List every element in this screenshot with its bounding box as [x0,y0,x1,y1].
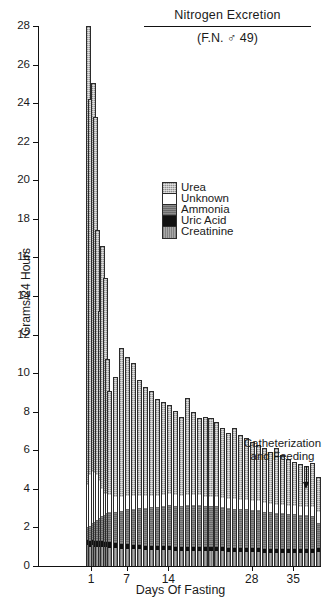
bar-segment-uric-acid [107,542,112,548]
y-axis-tick-label: 28 [17,19,30,31]
stacked-bar [220,428,225,566]
bar-segment-creatinine [274,553,279,567]
y-axis-tick: 28 [33,26,38,27]
stacked-bar [119,348,124,566]
stacked-bar [179,417,184,566]
bar-segment-unknown [310,507,315,516]
x-axis-tick-label: 7 [123,572,130,586]
bar-segment-creatinine [316,552,321,566]
y-axis-tick: 22 [33,142,38,143]
nitrogen-excretion-figure: Nitrogen Excretion (F.N. ♂ 49) Grams/24 … [0,0,325,602]
bar-segment-ammonia [244,509,249,548]
bar-segment-unknown [304,507,309,515]
bar-segment-creatinine [185,551,190,566]
y-axis-tick: 26 [33,65,38,66]
bar-segment-urea [286,459,291,506]
bar-segment-ammonia [268,512,273,549]
bar-segment-ammonia [173,506,178,547]
annotation-arrow-down-icon [302,466,311,490]
bar-segment-uric-acid [292,549,297,553]
bar-segment-unknown [256,501,261,510]
bar-segment-uric-acid [155,546,160,550]
bar-segment-uric-acid [304,549,309,553]
bar-segment-uric-acid [214,547,219,551]
bar-segment-creatinine [161,550,166,566]
bar-segment-urea [179,417,184,496]
stacked-bar [143,387,148,566]
bar-segment-uric-acid [143,546,148,550]
stacked-bar [286,459,291,566]
bar-segment-unknown [268,504,273,512]
bar-segment-ammonia [203,506,208,547]
bar-segment-creatinine [226,552,231,566]
bar-segment-unknown [238,500,243,509]
bar-segment-ammonia [250,510,255,548]
page-title: Nitrogen Excretion [140,8,315,25]
bar-segment-urea [125,357,130,496]
bar-segment-urea [232,428,237,499]
bar-segment-creatinine [173,551,178,566]
bar-segment-creatinine [232,552,237,566]
stacked-bar [232,428,237,566]
bar-segment-ammonia [310,516,315,549]
bar-segment-unknown [280,505,285,513]
bar-segment-creatinine [256,552,261,566]
bar-segment-creatinine [238,552,243,566]
y-axis-tick-label: 16 [17,250,30,262]
bar-segment-uric-acid [268,549,273,553]
legend-swatch-uric-acid [163,216,176,227]
bar-segment-ammonia [197,505,202,546]
bar-segment-uric-acid [179,547,184,551]
bar-segment-uric-acid [274,549,279,553]
bar-segment-ammonia [292,514,297,549]
bar-segment-uric-acid [185,547,190,551]
y-axis-tick: 12 [33,335,38,336]
y-axis-tick-label: 2 [24,520,30,532]
bar-segment-creatinine [250,552,255,566]
bar-segment-urea [161,402,166,495]
bar-segment-uric-acid [131,545,136,549]
bar-segment-uric-acid [167,546,172,550]
y-axis-tick-label: 18 [17,212,30,224]
stacked-bar [155,399,160,566]
stacked-bar [125,357,130,566]
bar-segment-ammonia [161,506,166,546]
bar-segment-creatinine [131,549,136,566]
bar-segment-creatinine [125,549,130,566]
bar-segment-ammonia [191,505,196,546]
bar-segment-ammonia [316,523,321,548]
bar-segment-urea [208,418,213,496]
bar-segment-urea [131,363,136,496]
bar-segment-uric-acid [316,548,321,552]
bar-segment-uric-acid [149,546,154,550]
bar-segment-uric-acid [244,548,249,552]
bar-segment-urea [292,462,297,506]
bar-segment-creatinine [167,550,172,566]
y-axis-tick-label: 10 [17,366,30,378]
bar-segment-urea [137,380,142,496]
legend-swatch-unknown [163,194,176,205]
bar-segment-unknown [274,505,279,513]
bar-segment-urea [220,428,225,497]
bar-segment-uric-acid [256,548,261,552]
bar-segment-creatinine [310,553,315,567]
bar-segment-creatinine [113,548,118,566]
bar-segment-uric-acid [208,547,213,551]
bar-segment-creatinine [220,551,225,566]
bar-segment-uric-acid [238,548,243,552]
y-axis-tick-label: 6 [24,443,30,455]
bar-segment-urea [185,398,190,494]
bar-segment-uric-acid [125,544,130,549]
bar-segment-unknown [119,497,124,511]
y-axis-tick-label: 24 [17,96,30,108]
bar-segment-ammonia [298,515,303,549]
stacked-bar [113,377,118,566]
bar-segment-ammonia [137,508,142,545]
bar-segment-unknown [113,497,118,512]
bar-segment-ammonia [155,507,160,546]
bar-segment-uric-acid [137,545,142,549]
bar-segment-unknown [185,495,190,506]
bar-segment-urea [155,399,160,495]
bar-segment-uric-acid [173,547,178,551]
stacked-bar [197,418,202,566]
